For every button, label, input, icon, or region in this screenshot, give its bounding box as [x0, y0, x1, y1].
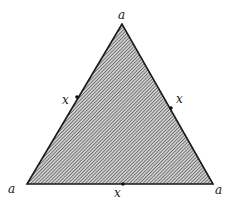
midpoint-marker-left — [75, 95, 79, 99]
edge-label-bottom: x — [114, 187, 121, 199]
midpoint-marker-right — [169, 106, 173, 110]
edge-label-left: x — [62, 94, 69, 106]
vertex-label-bottom-right: a — [215, 184, 222, 196]
vertex-label-top: a — [118, 9, 125, 21]
midpoint-marker-bottom — [121, 182, 125, 186]
edge-label-right: x — [176, 93, 183, 105]
vertex-label-bottom-left: a — [8, 183, 15, 195]
triangle-diagram — [0, 0, 236, 208]
hatched-triangle — [27, 24, 213, 184]
